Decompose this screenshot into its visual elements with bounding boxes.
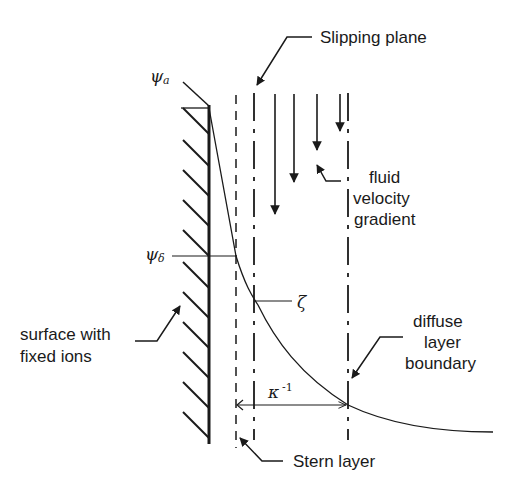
kappa-exponent: -1: [282, 381, 293, 394]
surface-hatching: [183, 108, 209, 438]
psi-delta-subscript: δ: [158, 252, 165, 265]
velocity-gradient-callout: fluid velocity gradient: [317, 165, 416, 229]
psi-a-subscript: a: [163, 74, 170, 87]
potential-curve: [209, 108, 493, 432]
charged-surface: [183, 105, 209, 444]
velocity-gradient-label-line-3: gradient: [354, 210, 416, 229]
surface-label-line-1: surface with: [20, 325, 111, 344]
diffuse-boundary-callout: diffuse layer boundary: [352, 312, 476, 378]
zeta-symbol: ζ: [297, 292, 308, 312]
diffuse-label-line-1: diffuse: [413, 312, 463, 331]
psi-a-marker: ψ a: [150, 66, 209, 108]
slipping-plane-label: Slipping plane: [320, 28, 427, 47]
surface-callout: surface with fixed ions: [20, 306, 180, 366]
velocity-gradient-label-line-1: fluid: [369, 168, 400, 187]
diffuse-label-line-3: boundary: [405, 354, 476, 373]
stern-layer-callout: Stern layer: [240, 438, 376, 471]
kappa-symbol: κ: [267, 382, 279, 402]
double-layer-diagram: ψ a ψ δ ζ κ -1 Slipping plane fluid velo…: [0, 0, 513, 494]
stern-layer-label: Stern layer: [293, 452, 376, 471]
velocity-arrows: [275, 94, 340, 214]
surface-label-line-2: fixed ions: [20, 347, 92, 366]
velocity-gradient-label-line-2: velocity: [353, 189, 410, 208]
psi-a-symbol: ψ: [150, 66, 164, 86]
psi-delta-marker: ψ δ: [145, 244, 236, 265]
diffuse-label-line-2: layer: [424, 333, 461, 352]
slipping-plane-callout: Slipping plane: [257, 28, 427, 85]
psi-delta-symbol: ψ: [145, 244, 159, 264]
zeta-marker: ζ: [254, 292, 308, 312]
